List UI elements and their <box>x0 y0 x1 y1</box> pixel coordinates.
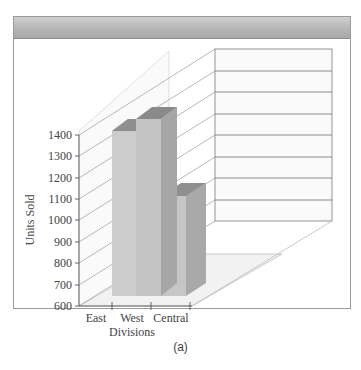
y-tick-1400: 1400 <box>48 128 72 142</box>
y-tick-1300: 1300 <box>48 149 72 163</box>
y-tick-700: 700 <box>54 278 72 292</box>
x-tick-west: West <box>120 311 144 325</box>
y-tick-800: 800 <box>54 256 72 270</box>
y-tick-1100: 1100 <box>48 192 72 206</box>
y-tick-900: 900 <box>54 235 72 249</box>
y-tick-1200: 1200 <box>48 171 72 185</box>
bar-west <box>136 107 177 296</box>
figure-caption: (a) <box>0 340 361 354</box>
y-tick-600: 600 <box>54 299 72 313</box>
x-tick-east: East <box>86 311 107 325</box>
x-axis-label: Divisions <box>109 325 155 339</box>
chart-plot: 1400 1300 1200 1100 1000 900 800 700 600… <box>0 0 361 370</box>
y-tick-1000: 1000 <box>48 213 72 227</box>
y-axis-label: Units Sold <box>23 194 37 245</box>
x-tick-central: Central <box>153 311 189 325</box>
bar-east <box>112 119 136 296</box>
